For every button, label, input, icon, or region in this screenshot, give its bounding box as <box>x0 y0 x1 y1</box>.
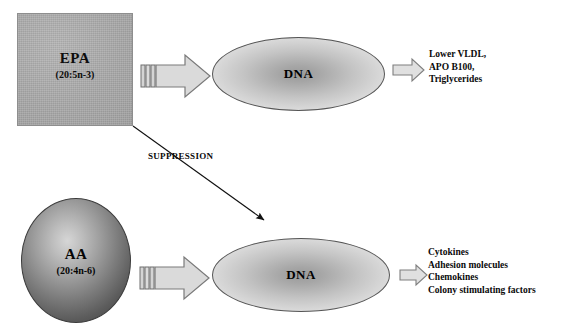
outcome-bottom-line-4: Colony stimulating factors <box>428 284 536 297</box>
epa-node: EPA (20:5n-3) <box>17 13 133 126</box>
aa-subtitle: (20:4n-6) <box>22 264 130 277</box>
dna-top-output-arrow <box>392 57 426 87</box>
suppression-label: SUPPRESSION <box>148 151 213 161</box>
dna-node-top: DNA <box>212 37 385 111</box>
dna-bottom-output-arrow <box>399 263 429 291</box>
epa-label-group: EPA (20:5n-3) <box>18 50 132 81</box>
epa-to-dna-arrow <box>140 52 212 104</box>
dna-bottom-label: DNA <box>213 267 389 283</box>
aa-to-dna-arrow <box>139 254 211 306</box>
block-arrow-icon <box>139 254 211 302</box>
epa-title: EPA <box>18 50 132 67</box>
outcome-bottom-line-3: Chemokines <box>428 271 536 284</box>
dna-top-label: DNA <box>213 66 384 82</box>
dna-node-bottom: DNA <box>212 238 390 312</box>
epa-subtitle: (20:5n-3) <box>18 68 132 81</box>
outcome-top-line-3: Triglycerides <box>429 73 486 86</box>
diagram-canvas: EPA (20:5n-3) DNA Lower VLDL, APO B100, … <box>0 0 561 335</box>
small-arrow-icon <box>392 57 426 83</box>
outcomes-bottom: Cytokines Adhesion molecules Chemokines … <box>428 246 536 296</box>
outcome-top-line-2: APO B100, <box>429 61 486 74</box>
outcome-bottom-line-2: Adhesion molecules <box>428 259 536 272</box>
outcomes-top: Lower VLDL, APO B100, Triglycerides <box>429 48 486 86</box>
outcome-top-line-1: Lower VLDL, <box>429 48 486 61</box>
aa-title: AA <box>22 246 130 263</box>
aa-node: AA (20:4n-6) <box>21 198 131 323</box>
outcome-bottom-line-1: Cytokines <box>428 246 536 259</box>
block-arrow-icon <box>140 52 212 100</box>
small-arrow-icon <box>399 263 429 287</box>
aa-label-group: AA (20:4n-6) <box>22 246 130 277</box>
